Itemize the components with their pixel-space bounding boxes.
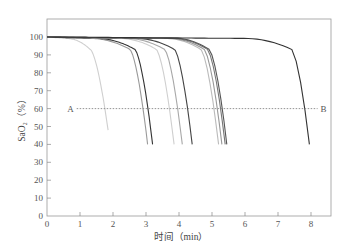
y-tick-label: 80: [34, 68, 44, 78]
x-tick-label: 8: [309, 219, 314, 229]
y-tick-label: 20: [34, 175, 44, 185]
x-tick-label: 0: [45, 219, 50, 229]
label-b: B: [321, 104, 327, 114]
y-tick-label: 0: [39, 211, 44, 221]
y-axis-title: SaO₂（%）: [16, 94, 27, 142]
y-tick-label: 30: [34, 157, 44, 167]
y-tick-label: 60: [34, 104, 44, 114]
x-tick-label: 2: [111, 219, 116, 229]
x-tick-label: 6: [243, 219, 248, 229]
y-tick-label: 100: [30, 32, 44, 42]
y-tick-label: 40: [34, 139, 44, 149]
y-tick-label: 90: [34, 50, 44, 60]
y-tick-label: 50: [34, 122, 44, 132]
x-tick-label: 3: [144, 219, 149, 229]
chart-canvas: 0102030405060708090100 012345678 AB 时间（m…: [0, 0, 350, 251]
x-tick-label: 7: [276, 219, 281, 229]
y-tick-label: 70: [34, 86, 44, 96]
x-axis-title: 时间（min）: [154, 231, 209, 242]
x-tick-label: 5: [210, 219, 215, 229]
label-a: A: [67, 104, 74, 114]
x-tick-label: 4: [177, 219, 182, 229]
x-tick-label: 1: [78, 219, 83, 229]
y-tick-label: 10: [34, 193, 44, 203]
